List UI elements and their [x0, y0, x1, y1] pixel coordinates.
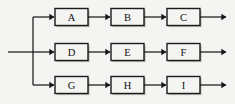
- row-bottom-output-arrow-icon: [221, 82, 226, 88]
- row-middle: DEF: [33, 44, 227, 63]
- block-label-f: F: [181, 47, 187, 58]
- arrow-icon-to-e: [105, 49, 110, 55]
- block-label-g: G: [68, 80, 76, 91]
- row-middle-branch-arrow-icon: [49, 49, 54, 55]
- arrow-icon-to-f: [161, 49, 166, 55]
- block-label-c: C: [180, 12, 187, 23]
- block-label-e: E: [124, 47, 130, 58]
- row-top-output-arrow-icon: [221, 14, 226, 20]
- block-label-b: B: [124, 12, 131, 23]
- row-bottom: GHI: [33, 77, 227, 96]
- row-top: ABC: [33, 9, 227, 28]
- block-diagram: ABCDEFGHI: [0, 0, 235, 104]
- row-bottom-branch-arrow-icon: [49, 82, 54, 88]
- block-label-a: A: [68, 12, 76, 23]
- row-top-branch-arrow-icon: [49, 14, 54, 20]
- diagram-canvas: ABCDEFGHI: [0, 0, 235, 104]
- row-middle-output-arrow-icon: [221, 49, 226, 55]
- block-label-d: D: [68, 47, 76, 58]
- block-label-h: H: [124, 80, 132, 91]
- block-label-i: I: [182, 80, 186, 91]
- arrow-icon-to-i: [161, 82, 166, 88]
- arrow-icon-to-c: [161, 14, 166, 20]
- input-distribution-bus: [8, 17, 33, 85]
- arrow-icon-to-h: [105, 82, 110, 88]
- diagram-rows: ABCDEFGHI: [33, 9, 227, 96]
- arrow-icon-to-b: [105, 14, 110, 20]
